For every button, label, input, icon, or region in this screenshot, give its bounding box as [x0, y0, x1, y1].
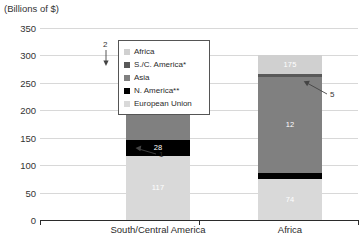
- y-axis-tick-label: 150: [2, 132, 36, 143]
- y-axis-tick-label: 350: [2, 23, 36, 34]
- x-axis-category-label: South/Central America: [110, 224, 205, 235]
- y-axis-tick-label: 250: [2, 77, 36, 88]
- callout-label-5: 5: [330, 90, 334, 99]
- y-axis-tick-label: 100: [2, 160, 36, 171]
- callout-label-1: 1: [159, 150, 163, 159]
- y-axis-tick-label: 0: [2, 215, 36, 226]
- y-axis-tick-label: 200: [2, 105, 36, 116]
- x-axis-category-label: Africa: [278, 224, 302, 235]
- callout-label-2: 2: [103, 40, 107, 49]
- chart-container: (Billions of $) 117281387412175 Africa S…: [0, 0, 363, 241]
- callout-arrows: [0, 0, 363, 241]
- y-axis-tick-label: 300: [2, 50, 36, 61]
- y-axis-tick-label: 50: [2, 187, 36, 198]
